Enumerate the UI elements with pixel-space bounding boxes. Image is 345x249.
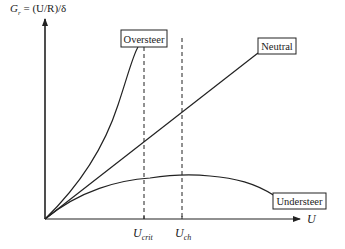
oversteer-curve [45,47,138,219]
understeer-label-box: Understeer [273,193,326,209]
steering-gain-diagram: Gr = (U/R)/δ U Ucrit Uch Oversteer Neutr… [0,0,345,249]
neutral-label: Neutral [261,41,293,52]
x-axis-label: U [307,212,317,226]
understeer-label: Understeer [276,196,323,207]
u-ch-label: Uch [175,226,191,242]
oversteer-label: Oversteer [124,34,165,45]
y-axis-label: Gr = (U/R)/δ [10,2,66,17]
u-crit-label: Ucrit [133,226,154,242]
neutral-curve [45,53,258,219]
understeer-curve [45,175,275,219]
neutral-label-box: Neutral [258,38,296,54]
oversteer-label-box: Oversteer [121,30,167,47]
